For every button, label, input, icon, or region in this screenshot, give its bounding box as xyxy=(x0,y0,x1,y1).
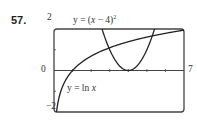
parabola-label-prefix: y = ( xyxy=(73,15,91,25)
ln-x-curve xyxy=(57,30,184,112)
log-label-prefix: y = ln xyxy=(67,83,92,93)
log-label-var: x xyxy=(92,83,96,93)
parabola-label-suffix: − 4) xyxy=(95,15,113,25)
x-min-label: 0 xyxy=(41,64,46,74)
x-max-label: 7 xyxy=(188,64,193,74)
parabola-curve xyxy=(102,29,155,71)
log-label: y = ln x xyxy=(67,83,96,93)
parabola-label: y = (x − 4)2 xyxy=(73,14,116,25)
y-max-label: 2 xyxy=(47,12,52,22)
graph xyxy=(54,29,184,112)
parabola-label-exponent: 2 xyxy=(113,14,116,20)
y-min-label: −2 xyxy=(46,101,56,111)
